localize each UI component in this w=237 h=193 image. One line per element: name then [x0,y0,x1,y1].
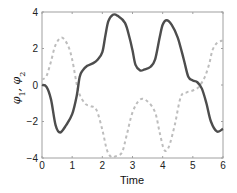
y-tick-label: 2 [32,43,38,54]
series-lines [42,14,223,157]
x-tick-label: 6 [220,160,226,171]
plot-frame [42,12,223,158]
x-tick-label: 1 [69,160,75,171]
x-tick-label: 5 [190,160,196,171]
x-tick-label: 0 [39,160,45,171]
line-chart: 0123456−4−2024 Time φ1, φ2 [0,0,237,193]
y-axis-label: φ1, φ2 [10,72,27,105]
y-tick-label: −2 [27,116,39,127]
y-tick-label: −4 [27,153,39,164]
y-tick-label: 4 [32,7,38,18]
axes-box [42,12,223,158]
x-tick-label: 3 [130,160,136,171]
x-tick-label: 4 [160,160,166,171]
axis-ticks: 0123456−4−2024 [27,7,227,172]
x-axis-label: Time [120,174,144,186]
x-tick-label: 2 [100,160,106,171]
y-tick-label: 0 [32,80,38,91]
